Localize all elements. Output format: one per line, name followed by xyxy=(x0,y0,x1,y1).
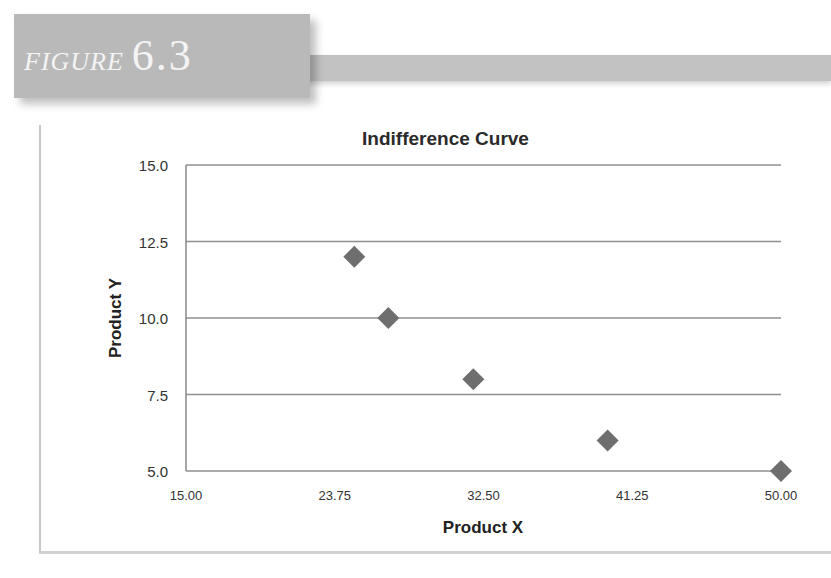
diamond-marker xyxy=(597,429,619,451)
y-tick-label: 15.0 xyxy=(139,157,168,174)
gridlines xyxy=(186,165,781,471)
y-tick-label: 5.0 xyxy=(147,463,168,480)
x-axis-ticks: 15.0023.7532.5041.2550.00 xyxy=(170,488,798,503)
x-tick-label: 50.00 xyxy=(765,488,798,503)
x-tick-label: 23.75 xyxy=(318,488,351,503)
diamond-marker xyxy=(770,460,792,482)
x-tick-label: 32.50 xyxy=(467,488,500,503)
y-axis-ticks: 15.012.510.07.55.0 xyxy=(139,157,168,480)
y-tick-label: 10.0 xyxy=(139,310,168,327)
y-tick-label: 7.5 xyxy=(147,387,168,404)
x-axis-label: Product X xyxy=(443,518,523,538)
diamond-marker xyxy=(462,368,484,390)
y-tick-label: 12.5 xyxy=(139,234,168,251)
y-axis-label: Product Y xyxy=(106,278,126,358)
x-tick-label: 41.25 xyxy=(616,488,649,503)
diamond-marker xyxy=(343,246,365,268)
x-tick-label: 15.00 xyxy=(170,488,203,503)
diamond-marker xyxy=(377,307,399,329)
data-points xyxy=(343,246,792,482)
